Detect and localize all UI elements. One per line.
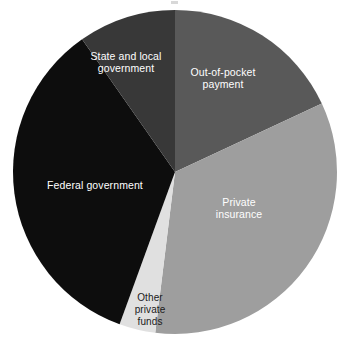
pie-slices-group [13,10,337,334]
pie-chart-svg [0,0,348,346]
pie-chart: State and local government Out-of-pocket… [0,0,348,346]
